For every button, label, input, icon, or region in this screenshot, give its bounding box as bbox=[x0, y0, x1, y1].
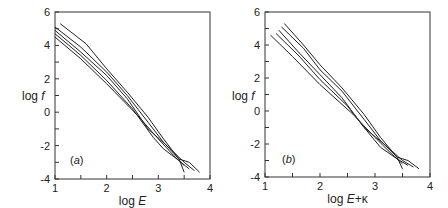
y-tick-label: -4 bbox=[250, 171, 260, 183]
y-tick-label: -2 bbox=[250, 138, 260, 150]
x-axis-label: log E+κ bbox=[327, 192, 368, 206]
x-tick-label: 4 bbox=[207, 182, 213, 194]
y-tick-label: 4 bbox=[254, 39, 260, 51]
x-tick-label: 3 bbox=[372, 180, 378, 192]
y-tick-label: -4 bbox=[40, 173, 50, 185]
y-tick-label: -2 bbox=[40, 140, 50, 152]
x-tick-label: 2 bbox=[104, 182, 110, 194]
panel-label: (a) bbox=[70, 154, 83, 166]
data-curve bbox=[60, 24, 200, 173]
x-tick-label: 2 bbox=[317, 180, 323, 192]
panel-a: 1234-4-20246log flog E(a) bbox=[22, 6, 213, 208]
panel-b: 1234-4-20246log flog E+κ(b) bbox=[232, 6, 433, 206]
data-curve bbox=[279, 30, 414, 167]
x-axis-label: log E bbox=[119, 194, 147, 208]
y-axis-label: log f bbox=[22, 89, 46, 103]
x-tick-label: 1 bbox=[52, 182, 58, 194]
data-curve bbox=[276, 34, 408, 166]
figure: 1234-4-20246log flog E(a) 1234-4-20246lo… bbox=[0, 0, 448, 208]
y-tick-label: 6 bbox=[44, 6, 50, 18]
x-tick-label: 4 bbox=[427, 180, 433, 192]
data-curve bbox=[284, 24, 419, 169]
y-tick-label: 0 bbox=[44, 106, 50, 118]
y-axis-label: log f bbox=[232, 89, 256, 103]
data-curve bbox=[271, 35, 403, 164]
y-tick-label: 2 bbox=[254, 72, 260, 84]
x-tick-label: 3 bbox=[155, 182, 161, 194]
y-tick-label: 2 bbox=[44, 73, 50, 85]
panel-label: (b) bbox=[282, 153, 295, 165]
y-tick-label: 4 bbox=[44, 39, 50, 51]
y-tick-label: 0 bbox=[254, 105, 260, 117]
data-curve bbox=[55, 37, 184, 166]
x-tick-label: 1 bbox=[262, 180, 268, 192]
y-tick-label: 6 bbox=[254, 6, 260, 18]
